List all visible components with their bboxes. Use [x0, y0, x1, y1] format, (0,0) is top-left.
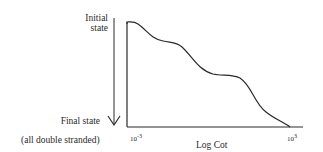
initial-label-line2: state	[60, 23, 108, 33]
tick-left-exp: -3	[137, 133, 142, 139]
initial-state-label: Initial state	[60, 13, 108, 33]
chart-canvas	[0, 0, 323, 152]
cot-curve-figure: Initial state Final state (all double st…	[0, 0, 323, 152]
tick-left-base: 10	[130, 135, 137, 143]
x-tick-left: 10-3	[130, 133, 142, 143]
tick-right-base: 10	[287, 135, 294, 143]
final-state-label: Final state	[40, 116, 100, 126]
reassociation-curve	[127, 22, 290, 127]
x-tick-right: 103	[287, 133, 297, 143]
initial-label-line1: Initial	[60, 13, 108, 23]
x-axis-label: Log Cot	[196, 140, 227, 150]
tick-right-exp: 3	[294, 133, 297, 139]
final-state-sublabel: (all double stranded)	[21, 135, 100, 145]
